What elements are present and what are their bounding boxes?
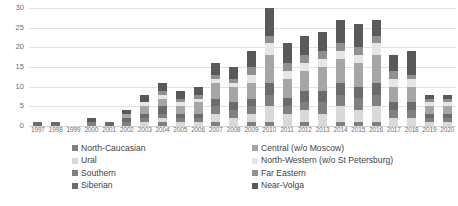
bar-segment [229,110,238,118]
y-axis-tick-15: 15 [15,63,24,71]
bar-2014[interactable] [336,20,345,126]
legend-item[interactable]: Southern [72,167,145,180]
bar-segment [247,114,256,122]
bar-2010[interactable] [265,8,274,126]
bar-slot-2009 [243,8,261,126]
legend-item[interactable]: Central (w/o Moscow) [252,142,393,155]
bar-segment [194,102,203,114]
bar-segment [318,32,327,52]
legend-item[interactable]: Far Eastern [252,167,393,180]
bar-segment [300,102,309,110]
legend-item[interactable]: Siberian [72,180,145,193]
x-axis-tick-2014: 2014 [332,127,350,141]
bar-segment [336,95,345,107]
legend-item[interactable]: Ural [72,155,145,168]
bar-2013[interactable] [318,32,327,126]
bar-segment [372,106,381,122]
x-axis-tick-2020: 2020 [438,127,456,141]
bar-segment [283,98,292,106]
bar-2012[interactable] [300,36,309,126]
bar-2000[interactable] [87,118,96,126]
bar-slot-2014 [332,8,350,126]
bar-segment [247,51,256,67]
bar-segment [407,118,416,126]
bar-segment [176,91,185,99]
bar-2006[interactable] [194,87,203,126]
bar-segment [229,118,238,126]
legend-label: North-Western (w/o St Petersburg) [261,156,393,165]
bar-segment [265,8,274,36]
bar-2015[interactable] [354,24,363,126]
bar-2009[interactable] [247,51,256,126]
bar-segment [389,102,398,110]
legend-item[interactable]: North-Western (w/o St Petersburg) [252,155,393,168]
legend-label: Central (w/o Moscow) [261,144,344,153]
legend-label: Far Eastern [261,169,306,178]
bar-slot-2018 [403,8,421,126]
bar-2002[interactable] [122,110,131,126]
bar-slot-2012 [296,8,314,126]
bar-segment [336,59,345,83]
bar-segment [372,20,381,36]
bar-segment [158,99,167,107]
bar-2008[interactable] [229,67,238,126]
bar-segment [158,106,167,114]
legend-swatch-icon [72,158,78,164]
bar-segment [300,36,309,56]
bar-2019[interactable] [425,95,434,126]
bar-2016[interactable] [372,20,381,126]
bar-segment [354,63,363,87]
bar-segment [194,87,203,95]
bar-slot-2000 [82,8,100,126]
bar-slot-1997 [29,8,47,126]
legend-swatch-icon [72,145,78,151]
bar-segment [211,99,220,107]
y-axis-tick-30: 30 [15,4,24,12]
y-axis-tick-10: 10 [15,83,24,91]
bar-segment [354,110,363,122]
bar-segment [425,106,434,114]
bar-segment [407,102,416,110]
bar-segment [389,118,398,126]
bar-segment [300,63,309,71]
bar-segment [318,51,327,59]
bar-2017[interactable] [389,55,398,126]
bar-2011[interactable] [283,43,292,126]
legend-item[interactable]: Near-Volga [252,180,393,193]
bar-segment [229,87,238,103]
bar-2005[interactable] [176,91,185,126]
bar-2004[interactable] [158,83,167,126]
bar-2020[interactable] [443,95,452,126]
bar-segment [211,106,220,114]
bar-segment [247,106,256,114]
bar-segment [229,67,238,79]
bar-slot-1998 [47,8,65,126]
legend-swatch-icon [252,183,258,189]
bar-segment [283,71,292,79]
bar-segment [283,106,292,114]
bar-segment [407,51,416,75]
y-axis-tick-5: 5 [20,103,24,111]
x-axis-tick-1997: 1997 [29,127,47,141]
bar-slot-2003 [136,8,154,126]
legend-swatch-icon [72,170,78,176]
y-axis-tick-0: 0 [20,122,24,130]
x-axis-tick-2017: 2017 [385,127,403,141]
legend-item[interactable]: North-Caucasian [72,142,145,155]
x-axis-tick-1999: 1999 [65,127,83,141]
bar-segment [372,36,381,44]
x-axis-tick-2009: 2009 [243,127,261,141]
bar-segment [247,83,256,99]
bar-segment [407,87,416,103]
bar-slot-2017 [385,8,403,126]
stacked-bar-chart: 051015202530 199719981999200020012002200… [0,0,458,206]
bar-2018[interactable] [407,51,416,126]
bar-segment [336,106,345,122]
bar-2003[interactable] [140,95,149,126]
bar-segment [336,43,345,51]
x-axis-tick-1998: 1998 [47,127,65,141]
bar-slot-1999 [65,8,83,126]
y-axis-tick-20: 20 [15,44,24,52]
bar-2007[interactable] [211,63,220,126]
x-axis-tick-2013: 2013 [314,127,332,141]
